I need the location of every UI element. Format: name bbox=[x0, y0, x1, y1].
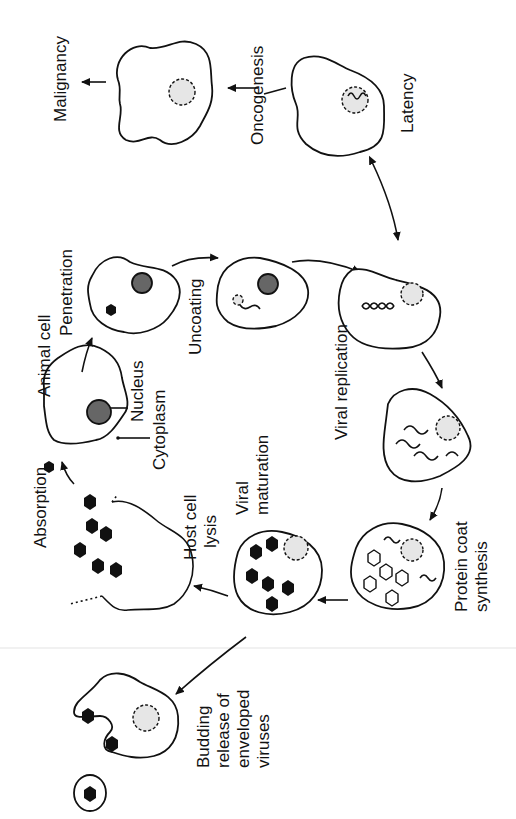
capsid-icon bbox=[368, 550, 380, 566]
label-host-cell-lysis-line1: Host cell bbox=[181, 495, 200, 560]
label-animal-cell: Animal cell bbox=[35, 315, 54, 397]
replication-cell bbox=[339, 269, 441, 349]
nucleus-icon bbox=[258, 274, 278, 294]
label-viral-maturation-line2: maturation bbox=[253, 435, 272, 515]
nucleus-icon bbox=[342, 87, 368, 113]
label-uncoating: Uncoating bbox=[186, 278, 205, 355]
capsid-icon bbox=[396, 570, 408, 586]
label-protein-coat-line2: synthesis bbox=[472, 541, 491, 612]
label-budding-line2: release of bbox=[214, 693, 233, 768]
maturation-cell bbox=[234, 531, 322, 614]
arrow-uncoating-replication bbox=[292, 260, 360, 272]
label-protein-coat-line1: Protein coat bbox=[452, 521, 471, 612]
arrow-maturation-budding bbox=[176, 637, 246, 694]
arrow-latency-replication bbox=[372, 162, 398, 240]
label-host-cell-lysis-line2: lysis bbox=[201, 515, 220, 548]
label-penetration: Penetration bbox=[57, 249, 76, 336]
nucleus-icon bbox=[401, 283, 423, 305]
animal-cell bbox=[44, 345, 128, 473]
nucleus-icon bbox=[436, 416, 460, 440]
label-latency: Latency bbox=[398, 73, 417, 133]
label-budding-line3: enveloped bbox=[234, 690, 253, 768]
arrow-maturation-lysis bbox=[194, 586, 228, 596]
label-malignancy: Malignancy bbox=[51, 36, 70, 122]
protein-synthesis-cell bbox=[351, 523, 444, 609]
label-budding-line1: Budding bbox=[194, 706, 213, 768]
transcription-cell bbox=[384, 389, 471, 481]
label-viral-replication: Viral replication bbox=[332, 324, 351, 440]
viral-genome-release-icon bbox=[233, 295, 243, 305]
penetration-cell bbox=[88, 257, 180, 333]
label-budding-line4: viruses bbox=[254, 714, 273, 768]
label-viral-maturation-line1: Viral bbox=[233, 481, 252, 515]
virus-icon bbox=[84, 494, 96, 510]
nucleus-icon bbox=[132, 273, 152, 293]
virus-icon bbox=[110, 562, 122, 578]
capsid-icon bbox=[386, 590, 398, 606]
nucleus-icon bbox=[284, 536, 308, 560]
viral-life-cycle-diagram: Malignancy Oncogenesis Latency Penetrati… bbox=[0, 0, 516, 819]
nucleus-icon bbox=[87, 400, 111, 424]
nucleus-icon bbox=[133, 705, 159, 731]
arrow-transcription-protein bbox=[430, 488, 442, 520]
nucleus-icon bbox=[169, 79, 195, 105]
arrow-replication-transcription bbox=[422, 352, 442, 388]
label-nucleus: Nucleus bbox=[128, 361, 147, 422]
virus-icon bbox=[92, 558, 104, 574]
virus-icon bbox=[86, 518, 98, 534]
nucleus-icon bbox=[401, 539, 423, 561]
capsid-icon bbox=[364, 576, 376, 592]
label-oncogenesis: Oncogenesis bbox=[248, 46, 267, 145]
arrow-penetration-uncoating bbox=[172, 258, 218, 266]
virus-icon bbox=[100, 526, 112, 542]
label-cytoplasm: Cytoplasm bbox=[150, 390, 169, 470]
budding-cell bbox=[74, 673, 178, 757]
capsid-icon bbox=[380, 564, 392, 580]
virus-icon bbox=[74, 542, 86, 558]
uncoating-cell bbox=[217, 258, 309, 329]
lysed-cell bbox=[70, 494, 193, 610]
label-absorption: Absorption bbox=[31, 467, 50, 548]
enveloped-virus bbox=[74, 775, 106, 811]
malignant-cell bbox=[117, 42, 212, 145]
arrow-lysis-absorption bbox=[62, 462, 74, 484]
oncogenesis-tick bbox=[264, 88, 286, 94]
latent-cell bbox=[292, 56, 385, 155]
